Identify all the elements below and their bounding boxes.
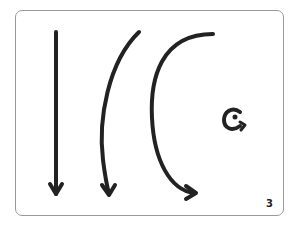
page-number: 3 [266, 198, 273, 209]
strong-curve-arrow-icon [152, 34, 213, 199]
rotation-center-dot [233, 115, 238, 120]
slight-curve-arrow-icon [102, 32, 139, 195]
diagram-canvas [0, 0, 295, 229]
straight-down-arrow-icon [50, 32, 62, 194]
rotation-icon [224, 110, 245, 130]
